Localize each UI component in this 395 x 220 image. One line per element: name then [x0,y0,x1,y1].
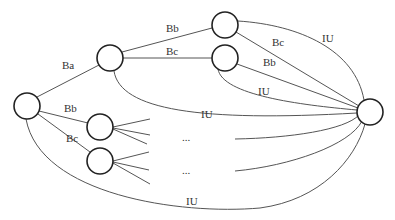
label-ab-sink-iu: IU [322,32,334,44]
label-a-ab: Bb [166,22,179,34]
label-root-a: Ba [62,59,74,71]
edge-ac-sink-bb [237,64,358,108]
edge-continuation-b-sink [235,115,359,139]
edge-ac-sink-iu [218,69,357,110]
ellipsis-b: ... [182,131,191,143]
node-ac [212,45,238,71]
label-a-sink-iu: IU [201,108,213,120]
node-a [97,45,123,71]
node-c [87,148,113,174]
edge-continuation-c-sink [235,121,362,171]
edge-ab-sink-bc [236,32,359,106]
edge-a-sink-iu [114,71,357,116]
ellipsis-c: ... [182,164,191,176]
label-root-sink-iu: IU [186,195,198,207]
node-sink [357,99,383,125]
edge-ab-sink-iu [238,21,364,100]
label-ac-sink-iu: IU [258,85,270,97]
fan-c-1 [113,152,149,161]
label-root-c: Bc [66,132,78,144]
tree-diagram: Ba Bb Bc Bc IU Bb IU IU Bb Bc ... ... IU [0,0,395,220]
node-root [14,93,40,119]
node-b [87,114,113,140]
label-ab-sink-bc: Bc [272,36,284,48]
fan-b-1 [113,119,150,127]
label-ac-sink-bb: Bb [263,56,276,68]
node-ab [212,12,238,38]
label-root-b: Bb [64,102,77,114]
label-a-ac: Bc [166,45,178,57]
edge-root-c [38,114,90,152]
